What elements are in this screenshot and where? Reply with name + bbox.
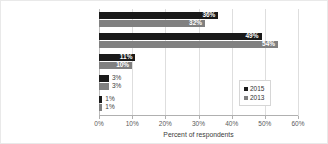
x-axis-title: Percent of respondents [99, 130, 298, 140]
bar-chart: Increased significantlyIncreased slightl… [0, 0, 328, 144]
bar-row: 54% [99, 41, 298, 48]
legend-item-2015: 2015 [244, 84, 264, 93]
x-tick-label: 50% [258, 119, 271, 129]
x-tick-label: 40% [225, 119, 238, 129]
legend-swatch-2013 [244, 96, 248, 100]
bar-value-label: 32% [189, 18, 202, 28]
bar [99, 96, 102, 103]
bar-value-label: 49% [246, 31, 259, 41]
legend-item-2013: 2013 [244, 93, 264, 102]
bar [99, 33, 262, 40]
bar-row: 32% [99, 20, 298, 27]
bar-group: 36%32% [99, 12, 298, 28]
legend-label-2015: 2015 [250, 84, 264, 93]
bar-group: 49%54% [99, 33, 298, 49]
legend: 2015 2013 [239, 80, 271, 106]
bar-value-label: 10% [116, 60, 129, 70]
bar-value-label: 54% [262, 39, 275, 49]
legend-label-2013: 2013 [250, 93, 264, 102]
x-tick-label: 0% [94, 119, 103, 129]
bar-value-label: 36% [202, 10, 215, 20]
gridline [298, 9, 299, 116]
legend-swatch-2015 [244, 87, 248, 91]
x-tick-label: 60% [291, 119, 304, 129]
x-tick-label: 20% [159, 119, 172, 129]
bar [99, 104, 102, 111]
bar-row: 10% [99, 62, 298, 69]
bar-value-label: 3% [112, 81, 121, 91]
x-tick-label: 10% [126, 119, 139, 129]
bar [99, 83, 109, 90]
x-tick-label: 30% [192, 119, 205, 129]
bar [99, 75, 109, 82]
bar-group: 11%10% [99, 54, 298, 70]
bar-value-label: 1% [105, 102, 114, 112]
bar [99, 41, 278, 48]
